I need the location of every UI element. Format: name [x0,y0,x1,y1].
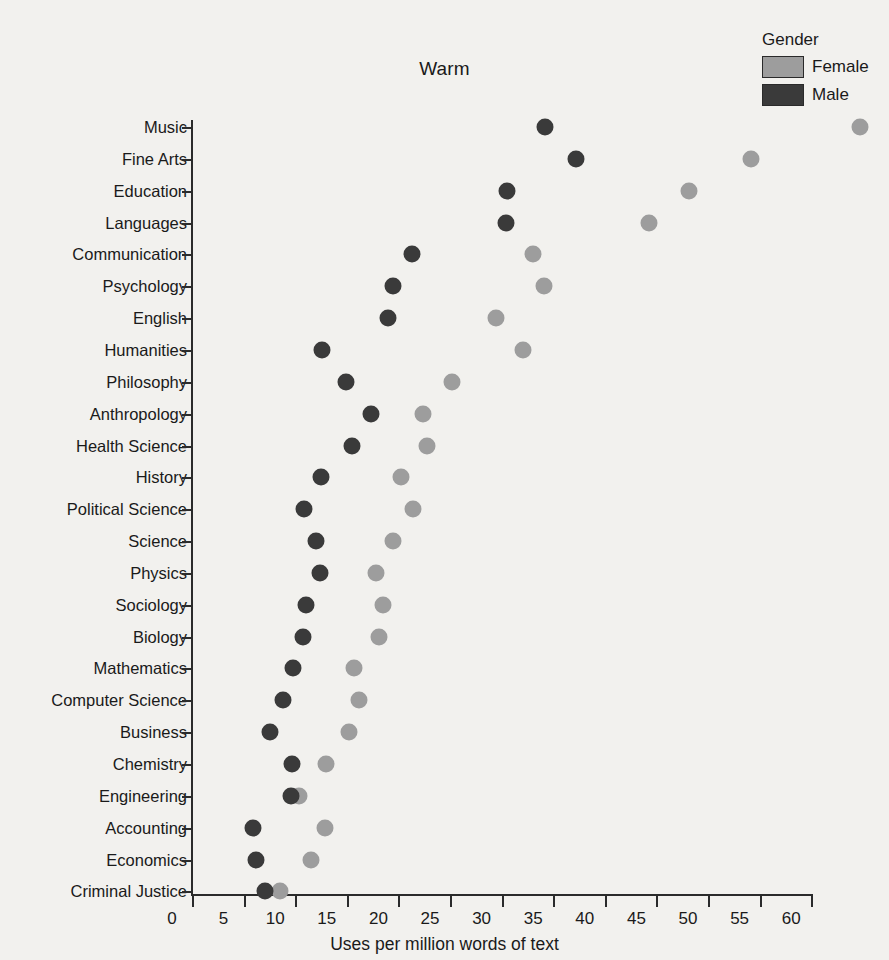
data-point-male[interactable] [385,278,402,295]
y-axis-line [191,120,193,895]
data-point-female[interactable] [524,246,541,263]
y-axis-tick [182,477,191,479]
y-axis-label: Languages [105,214,187,232]
data-point-female[interactable] [743,150,760,167]
x-axis-tick [192,896,194,907]
y-axis-label: Physics [130,564,187,582]
data-point-male[interactable] [296,501,313,518]
data-point-female[interactable] [515,341,532,358]
data-point-female[interactable] [444,373,461,390]
x-axis-tick-label: 0 [152,909,192,929]
data-point-male[interactable] [498,182,515,199]
data-point-female[interactable] [415,405,432,422]
y-axis-tick [182,828,191,830]
y-axis-tick [182,223,191,225]
x-axis-tick [760,896,762,907]
y-axis-label: Chemistry [113,755,187,773]
y-axis-label: Engineering [99,787,187,805]
y-axis-label: History [136,468,187,486]
data-point-male[interactable] [362,405,379,422]
y-axis-tick [182,446,191,448]
x-axis-tick-label: 55 [720,909,760,929]
data-point-male[interactable] [262,724,279,741]
y-axis-tick [182,573,191,575]
data-point-male[interactable] [343,437,360,454]
data-point-female[interactable] [370,628,387,645]
chart-root: Warm Gender Female Male MusicFine ArtsEd… [0,0,889,960]
data-point-female[interactable] [385,533,402,550]
data-point-male[interactable] [283,787,300,804]
data-point-female[interactable] [641,214,658,231]
y-axis-tick [182,891,191,893]
x-axis-tick-label: 10 [255,909,295,929]
data-point-male[interactable] [567,150,584,167]
data-point-male[interactable] [403,246,420,263]
data-point-male[interactable] [536,119,553,136]
y-axis-label: Political Science [67,500,187,518]
x-axis-tick [502,896,504,907]
data-point-female[interactable] [317,819,334,836]
x-axis-tick-label: 45 [616,909,656,929]
data-point-female[interactable] [681,182,698,199]
y-axis-tick [182,732,191,734]
x-axis-tick [553,896,555,907]
y-axis-label: Health Science [76,437,187,455]
data-point-female[interactable] [404,501,421,518]
y-axis-tick [182,159,191,161]
data-point-male[interactable] [337,373,354,390]
data-point-male[interactable] [497,214,514,231]
x-axis-tick-label: 35 [513,909,553,929]
data-point-female[interactable] [488,310,505,327]
data-point-male[interactable] [314,341,331,358]
y-axis-label: Business [120,723,187,741]
data-point-male[interactable] [274,692,291,709]
y-axis-label: Psychology [103,277,187,295]
x-axis-tick-label: 60 [771,909,811,929]
data-point-male[interactable] [257,883,274,900]
y-axis-label: Music [144,118,187,136]
x-axis-tick [347,896,349,907]
x-axis-tick-label: 20 [358,909,398,929]
x-axis-tick-label: 15 [307,909,347,929]
data-point-female[interactable] [851,119,868,136]
data-point-male[interactable] [307,533,324,550]
y-axis-tick [182,541,191,543]
y-axis-tick [182,605,191,607]
y-axis-tick [182,382,191,384]
y-axis-tick [182,191,191,193]
data-point-female[interactable] [393,469,410,486]
data-point-male[interactable] [295,628,312,645]
data-point-male[interactable] [244,819,261,836]
y-axis-label: Biology [133,628,187,646]
y-axis-label: Education [114,182,187,200]
data-point-female[interactable] [302,851,319,868]
y-axis-label: Mathematics [93,659,187,677]
data-point-female[interactable] [340,724,357,741]
data-point-female[interactable] [367,564,384,581]
data-point-female[interactable] [535,278,552,295]
data-point-male[interactable] [297,596,314,613]
data-point-male[interactable] [284,756,301,773]
y-axis-label: Sociology [115,596,187,614]
data-point-female[interactable] [271,883,288,900]
data-point-female[interactable] [318,756,335,773]
data-point-male[interactable] [247,851,264,868]
data-point-male[interactable] [285,660,302,677]
y-axis-label: Fine Arts [122,150,187,168]
data-point-female[interactable] [351,692,368,709]
data-point-female[interactable] [346,660,363,677]
data-point-female[interactable] [374,596,391,613]
data-point-male[interactable] [380,310,397,327]
x-axis-title: Uses per million words of text [0,934,889,955]
y-axis-label: Criminal Justice [71,882,187,900]
y-axis-label: Humanities [104,341,187,359]
x-axis-tick-label: 50 [668,909,708,929]
data-point-female[interactable] [419,437,436,454]
y-axis-label: Science [128,532,187,550]
y-axis-label: Economics [106,851,187,869]
data-point-male[interactable] [311,564,328,581]
data-point-male[interactable] [313,469,330,486]
y-axis-tick [182,318,191,320]
x-axis-tick-label: 30 [462,909,502,929]
x-axis-tick [708,896,710,907]
